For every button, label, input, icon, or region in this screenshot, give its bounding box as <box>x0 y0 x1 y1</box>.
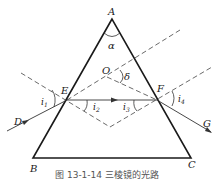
angle-i1-arc <box>52 90 55 107</box>
label-delta: δ <box>124 71 130 82</box>
prism-diagram: A B C D E F G O α δ i1 i2 i3 i4 <box>0 0 214 180</box>
label-O: O <box>102 65 110 76</box>
label-i4: i4 <box>178 94 185 105</box>
label-E: E <box>60 85 69 96</box>
label-A: A <box>107 6 115 17</box>
label-F: F <box>156 83 165 94</box>
angle-delta-arc <box>120 70 123 83</box>
emergent-extension-dashed <box>107 77 157 100</box>
angle-i4-arc <box>172 91 174 106</box>
angle-i3-arc <box>134 100 137 111</box>
label-G: G <box>203 118 211 129</box>
label-C: C <box>188 159 196 170</box>
label-i2: i2 <box>93 102 100 113</box>
angle-alpha-arc <box>104 33 120 37</box>
label-D: D <box>13 116 22 127</box>
angle-i2-arc <box>84 100 87 111</box>
incident-arrow-icon <box>22 120 29 125</box>
label-i1: i1 <box>41 97 48 108</box>
label-alpha: α <box>108 40 115 51</box>
refracted-arrow-icon <box>111 98 118 103</box>
figure-caption: 图 13-1-14 三棱镜的光路 <box>0 170 214 180</box>
label-i3: i3 <box>123 102 130 113</box>
